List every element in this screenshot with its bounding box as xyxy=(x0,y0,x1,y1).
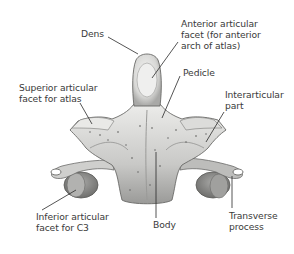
label-dens: Dens xyxy=(81,28,104,39)
leader-dens xyxy=(108,37,138,54)
label-interarticular-part: Interarticular part xyxy=(225,89,284,111)
leader-pedicle xyxy=(162,76,180,118)
label-body: Body xyxy=(153,219,176,230)
leader-inferior-facet xyxy=(42,190,76,210)
superior-facet-left xyxy=(72,117,114,130)
anterior-articular-facet xyxy=(137,63,157,97)
dens xyxy=(133,54,162,106)
label-pedicle: Pedicle xyxy=(183,67,215,78)
label-inferior-articular-facet: Inferior articular facet for C3 xyxy=(36,211,109,233)
label-transverse-process: Transverse process xyxy=(229,210,278,232)
label-anterior-articular-facet: Anterior articular facet (for anterior a… xyxy=(181,18,261,51)
label-superior-articular-facet: Superior articular facet for atlas xyxy=(19,82,97,104)
axis-vertebra-figure: Dens Anterior articular facet (for anter… xyxy=(0,0,294,254)
